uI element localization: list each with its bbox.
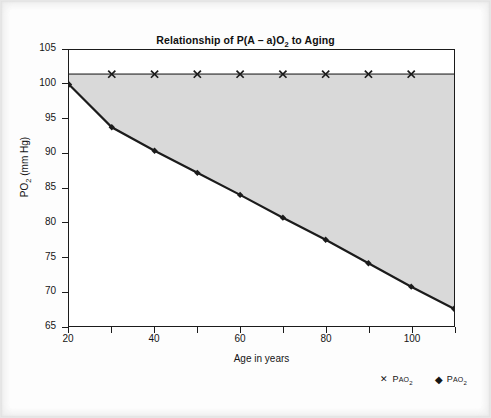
pa-ao2-difference-shading [69,74,454,309]
y-axis-tick-label: 70 [16,285,56,296]
y-axis-tick [62,222,68,223]
y-axis-tick [62,118,68,119]
scanned-figure-page: Relationship of P(A – a)O2 to Aging 6570… [0,0,491,418]
legend-label: PAO2 [447,374,467,386]
legend-entry-pao2: ✕PAO2 [380,374,412,386]
y-axis-tick-label: 65 [16,320,56,331]
y-axis-title-post: (mm Hg) [19,137,30,179]
y-axis-title-pre: PO [19,183,30,197]
diamond-marker-icon: ◆ [435,375,443,385]
plot-area [68,49,455,327]
chart-title-pre: Relationship of P(A – a)O [156,34,284,46]
x-axis-tick-label: 60 [220,333,260,344]
x-axis-tick [455,327,456,333]
x-axis-tick [197,327,198,333]
y-axis-tick-label: 100 [16,77,56,88]
legend-label: PAO2 [392,374,412,386]
x-axis-tick-label: 20 [48,333,88,344]
y-axis-tick-label: 105 [16,42,56,53]
legend-entry-pao2: ◆PAO2 [435,374,467,386]
y-axis-tick [62,292,68,293]
x-axis-tick [283,327,284,333]
y-axis-title-subscript: 2 [24,179,33,183]
y-axis-tick [62,153,68,154]
chart-series-layer [69,50,454,326]
chart-figure: Relationship of P(A – a)O2 to Aging 6570… [10,10,481,408]
y-axis-title: PO2 (mm Hg) [19,107,33,227]
x-axis-tick-label: 80 [306,333,346,344]
y-axis-tick [62,257,68,258]
y-axis-tick [62,83,68,84]
chart-legend: ✕PAO2◆PAO2 [380,374,467,386]
cross-marker-icon: ✕ [380,375,388,384]
x-axis-title: Age in years [68,353,455,364]
chart-title: Relationship of P(A – a)O2 to Aging [10,34,481,49]
y-axis-tick-label: 75 [16,251,56,262]
y-axis-tick [62,49,68,50]
x-axis-tick [369,327,370,333]
x-axis-tick [111,327,112,333]
x-axis-tick-label: 100 [392,333,432,344]
chart-title-post: to Aging [289,34,335,46]
y-axis-tick [62,188,68,189]
x-axis-tick-label: 40 [134,333,174,344]
